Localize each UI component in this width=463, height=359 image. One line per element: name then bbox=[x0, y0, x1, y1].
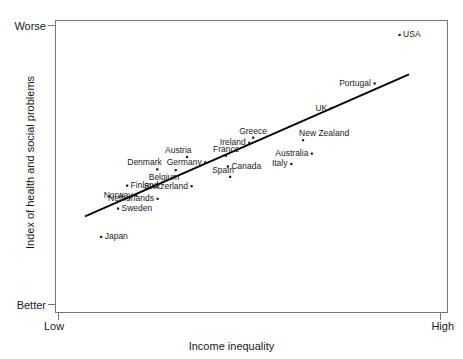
data-point-label: USA bbox=[403, 30, 420, 39]
data-point-marker bbox=[252, 137, 254, 139]
data-point-marker bbox=[156, 168, 158, 170]
data-point-label: Austria bbox=[165, 146, 191, 155]
data-point-label: Germany bbox=[167, 158, 202, 167]
data-point-marker bbox=[311, 153, 313, 155]
data-point-label: Canada bbox=[231, 162, 261, 171]
data-point-marker bbox=[374, 82, 376, 84]
data-point-marker bbox=[225, 155, 227, 157]
data-point-marker bbox=[229, 176, 231, 178]
data-point-label: UK bbox=[315, 104, 327, 113]
plot-canvas bbox=[0, 0, 463, 359]
data-point-label: Denmark bbox=[127, 158, 161, 167]
data-point-marker bbox=[290, 163, 292, 165]
y-axis-title: Index of health and social problems bbox=[24, 76, 36, 249]
scatter-chart: Index of health and social problems Inco… bbox=[0, 0, 463, 359]
data-point-label: New Zealand bbox=[299, 129, 349, 138]
data-point-label: Greece bbox=[239, 127, 267, 136]
data-point-marker bbox=[399, 34, 401, 36]
data-point-marker bbox=[190, 185, 192, 187]
data-point-marker bbox=[302, 139, 304, 141]
data-point-label: Switzerland bbox=[144, 182, 188, 191]
data-point-label: Portugal bbox=[339, 79, 371, 88]
data-point-label: Italy bbox=[272, 159, 288, 168]
data-point-marker bbox=[248, 142, 250, 144]
x-axis-title: Income inequality bbox=[0, 340, 463, 352]
data-point-marker bbox=[117, 208, 119, 210]
data-point-marker bbox=[330, 107, 332, 109]
data-point-label: Ireland bbox=[220, 138, 246, 147]
data-point-label: Japan bbox=[105, 232, 128, 241]
data-point-label: Sweden bbox=[122, 204, 153, 213]
x-tick-label-high: High bbox=[424, 320, 454, 332]
data-point-label: Australia bbox=[275, 149, 308, 158]
data-point-marker bbox=[175, 169, 177, 171]
data-point-label: Netherlands bbox=[108, 194, 154, 203]
x-tick-label-low: Low bbox=[44, 320, 72, 332]
data-point-marker bbox=[100, 236, 102, 238]
data-point-marker bbox=[204, 161, 206, 163]
y-tick-label-worse: Worse bbox=[8, 20, 46, 32]
y-tick-label-better: Better bbox=[8, 299, 46, 311]
data-point-marker bbox=[156, 198, 158, 200]
data-point-marker bbox=[126, 185, 128, 187]
